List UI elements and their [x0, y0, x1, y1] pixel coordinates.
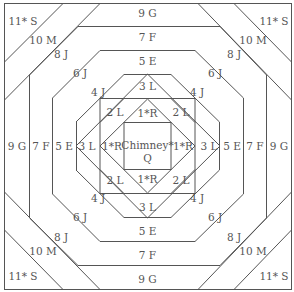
label-f7-left: 7 F — [32, 140, 49, 152]
label-g9-bottom: 9 G — [138, 273, 156, 285]
label-j6-bl: 6 J — [73, 211, 87, 223]
diag-tr-6 — [234, 4, 292, 63]
label-l3-top: 3 L — [139, 80, 156, 92]
label-m10-tr: 10 M — [239, 34, 267, 46]
label-j6-br: 6 J — [208, 211, 222, 223]
label-g9-top: 9 G — [138, 7, 156, 19]
label-j4-tr: 4 J — [190, 86, 204, 98]
label-l2-bl: 2 L — [107, 174, 124, 186]
label-l3-left: 3 L — [79, 140, 96, 152]
label-r1-bottom: 1*R — [138, 173, 159, 185]
label-j4-bl: 4 J — [91, 192, 105, 204]
label-r1-right: 1*R — [173, 140, 194, 152]
label-j6-tl: 6 J — [73, 67, 87, 79]
label-j8-bl: 8 J — [54, 231, 68, 243]
label-l3-right: 3 L — [201, 140, 218, 152]
label-e5-right: 5 E — [223, 140, 241, 152]
label-l2-tr: 2 L — [173, 106, 190, 118]
label-j6-tr: 6 J — [208, 67, 222, 79]
chimney-label: Chimney* — [121, 139, 174, 151]
label-m10-bl: 10 M — [29, 245, 57, 257]
label-s11-br: 11* S — [259, 270, 288, 282]
label-s11-bl: 11* S — [8, 270, 37, 282]
label-m10-tl: 10 M — [29, 34, 57, 46]
label-l3-bottom: 3 L — [139, 201, 156, 213]
quilt-piecing-diagram: Chimney* Q 1*R 1*R 1*R 1*R 2 L 2 L 2 L 2… — [0, 0, 294, 292]
label-e5-left: 5 E — [55, 140, 73, 152]
label-j4-br: 4 J — [190, 192, 204, 204]
label-m10-br: 10 M — [239, 245, 267, 257]
label-e5-bottom: 5 E — [139, 225, 157, 237]
label-e5-top: 5 E — [139, 55, 157, 67]
label-s11-tl: 11* S — [8, 15, 37, 27]
label-r1-left: 1*R — [102, 140, 123, 152]
label-f7-top: 7 F — [139, 31, 156, 43]
label-l2-br: 2 L — [173, 174, 190, 186]
label-j8-br: 8 J — [227, 231, 241, 243]
label-g9-left: 9 G — [8, 140, 26, 152]
label-r1-top: 1*R — [138, 107, 159, 119]
label-j4-tl: 4 J — [91, 86, 105, 98]
label-f7-right: 7 F — [246, 140, 263, 152]
label-f7-bottom: 7 F — [139, 249, 156, 261]
label-g9-right: 9 G — [270, 140, 288, 152]
label-j8-tr: 8 J — [227, 48, 241, 60]
chimney-sub-label: Q — [143, 152, 152, 164]
label-l2-tl: 2 L — [107, 106, 124, 118]
label-j8-tl: 8 J — [54, 48, 68, 60]
label-s11-tr: 11* S — [259, 15, 288, 27]
